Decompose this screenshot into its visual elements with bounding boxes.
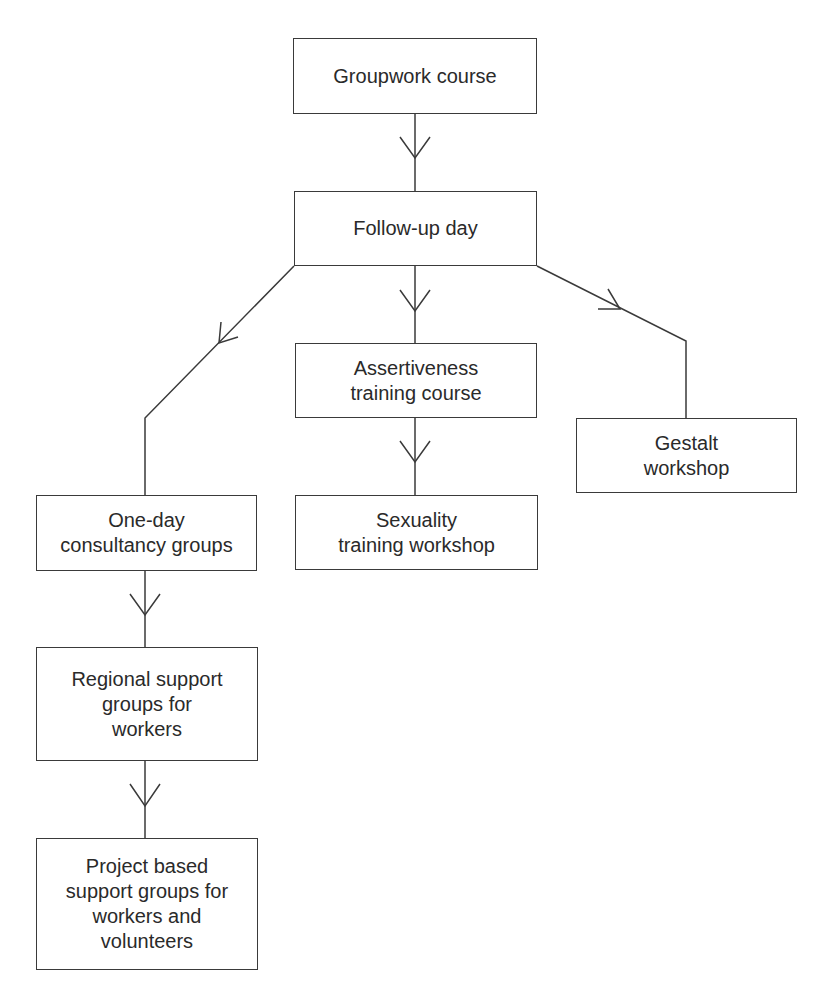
node-sexuality-training-workshop: Sexuality training workshop <box>295 495 538 570</box>
node-regional-support-groups: Regional support groups for workers <box>36 647 258 761</box>
node-gestalt-workshop: Gestalt workshop <box>576 418 797 493</box>
edge-followup-gestalt <box>537 266 686 418</box>
node-follow-up-day: Follow-up day <box>294 191 537 266</box>
node-one-day-consultancy-groups: One-day consultancy groups <box>36 495 257 571</box>
node-groupwork-course: Groupwork course <box>293 38 537 114</box>
node-project-based-support-groups: Project based support groups for workers… <box>36 838 258 970</box>
edge-followup-oneday <box>145 266 294 495</box>
node-assertiveness-training-course: Assertiveness training course <box>295 343 537 418</box>
